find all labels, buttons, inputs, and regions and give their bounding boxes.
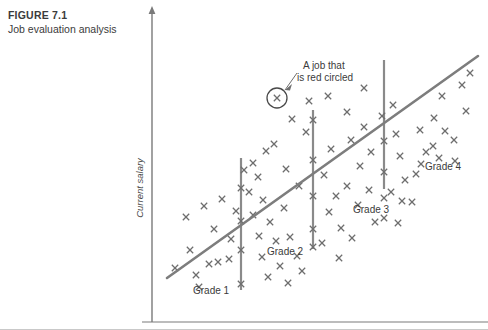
data-point [430, 143, 436, 149]
grade-label-1: Grade 1 [193, 285, 230, 296]
scatter-plot: Current salary Grade 1Grade 2Grade 3Grad… [0, 0, 488, 330]
data-point [306, 98, 312, 104]
data-point [366, 187, 372, 193]
data-point [267, 219, 273, 225]
data-point [319, 240, 325, 246]
data-point [285, 280, 291, 286]
data-point [277, 263, 283, 269]
data-point [361, 85, 367, 91]
data-point [463, 108, 469, 114]
data-point [321, 172, 327, 178]
data-point [349, 235, 355, 241]
data-point [211, 226, 217, 232]
data-point [226, 256, 232, 262]
data-point [467, 70, 473, 76]
data-point [299, 268, 305, 274]
data-point [256, 233, 262, 239]
data-point [413, 171, 419, 177]
callout-text-line-2: is red circled [297, 72, 353, 83]
data-point [459, 82, 465, 88]
data-point [368, 149, 374, 155]
data-point [357, 163, 363, 169]
data-point [260, 197, 266, 203]
data-point [183, 214, 189, 220]
data-point [259, 254, 265, 260]
data-point [417, 127, 423, 133]
data-point [390, 102, 396, 108]
data-point [395, 220, 401, 226]
data-point [381, 215, 387, 221]
data-point [219, 196, 225, 202]
grade-label-2: Grade 2 [267, 246, 304, 257]
data-point [250, 160, 256, 166]
data-point [263, 148, 269, 154]
data-point [372, 219, 378, 225]
data-point [193, 272, 199, 278]
data-point [381, 195, 387, 201]
callout-text-line-1: A job that [303, 60, 345, 71]
callout-leader-line [285, 73, 297, 90]
callout-layer: A job thatis red circled [285, 60, 353, 91]
data-point [451, 137, 457, 143]
data-point [338, 225, 344, 231]
data-point [402, 177, 408, 183]
data-point [233, 208, 239, 214]
data-point [289, 116, 295, 122]
data-point [388, 189, 394, 195]
data-point [431, 115, 437, 121]
data-point [393, 131, 399, 137]
data-point-layer [172, 70, 473, 290]
grade-label-4: Grade 4 [425, 161, 462, 172]
figure-container: FIGURE 7.1 Job evaluation analysis Curre… [0, 0, 488, 330]
data-point [348, 137, 354, 143]
data-point [439, 93, 445, 99]
data-point [273, 238, 279, 244]
data-point [246, 189, 252, 195]
data-point [201, 203, 207, 209]
data-point [361, 124, 367, 130]
data-point [287, 234, 293, 240]
data-point [344, 183, 350, 189]
data-point [265, 274, 271, 280]
y-axis-arrowhead [149, 6, 156, 14]
data-point [423, 149, 429, 155]
data-point [326, 209, 332, 215]
data-point [325, 93, 331, 99]
highlighted-point-layer [267, 88, 287, 108]
data-point [344, 109, 350, 115]
highlighted-job-point [267, 88, 287, 108]
data-point [228, 236, 234, 242]
data-point [303, 129, 309, 135]
data-point [333, 193, 339, 199]
data-point [442, 128, 448, 134]
data-point [409, 199, 415, 205]
data-point [399, 198, 405, 204]
data-point [283, 166, 289, 172]
data-point [328, 146, 334, 152]
data-point [187, 247, 193, 253]
data-point [271, 141, 277, 147]
data-point [206, 261, 212, 267]
grade-label-3: Grade 3 [353, 204, 390, 215]
data-point [255, 174, 261, 180]
y-axis-label: Current salary [134, 157, 145, 218]
data-point [418, 161, 424, 167]
data-point [281, 205, 287, 211]
grade-label-layer: Grade 1Grade 2Grade 3Grade 4 [193, 161, 462, 296]
data-point [215, 259, 221, 265]
data-point [336, 255, 342, 261]
data-point [397, 153, 403, 159]
